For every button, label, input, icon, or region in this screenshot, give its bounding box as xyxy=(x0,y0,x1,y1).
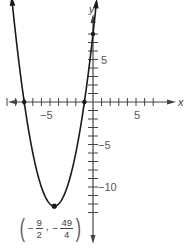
x-tick-label-neg5: −5 xyxy=(40,110,53,121)
y-intercept-dot xyxy=(91,32,95,36)
vertex-coordinate-label: ( − 9 2 , − 49 4 ) xyxy=(18,215,83,241)
curve-left-arrow-icon xyxy=(10,0,16,6)
y-fraction: 49 4 xyxy=(60,217,73,240)
y-denominator: 4 xyxy=(64,229,69,240)
y-minus-sign: − xyxy=(53,223,59,234)
y-axis-label: y xyxy=(89,4,95,15)
y-tick-label-neg5: −5 xyxy=(98,140,111,151)
x-fraction: 9 2 xyxy=(36,217,43,240)
x-numerator: 9 xyxy=(36,217,43,229)
y-numerator: 49 xyxy=(60,217,73,229)
x-minus-sign: − xyxy=(28,223,34,234)
x-intercept-dot xyxy=(22,100,26,104)
x-axis xyxy=(7,98,176,106)
x-denominator: 2 xyxy=(37,229,42,240)
marked-points xyxy=(22,32,95,209)
vertex-dot xyxy=(52,204,57,209)
y-axis-down-arrow-icon xyxy=(91,235,96,244)
comma: , xyxy=(46,221,49,241)
y-tick-label-neg10: −10 xyxy=(98,182,117,193)
x-axis-label: x xyxy=(178,97,184,108)
close-paren: ) xyxy=(76,215,81,241)
x-intercept-dot xyxy=(82,100,86,104)
y-axis xyxy=(88,14,98,244)
x-tick-label-5: 5 xyxy=(134,110,140,121)
y-tick-label-5: 5 xyxy=(101,55,107,66)
x-axis-right-arrow-icon xyxy=(167,100,176,105)
open-paren: ( xyxy=(20,215,25,241)
